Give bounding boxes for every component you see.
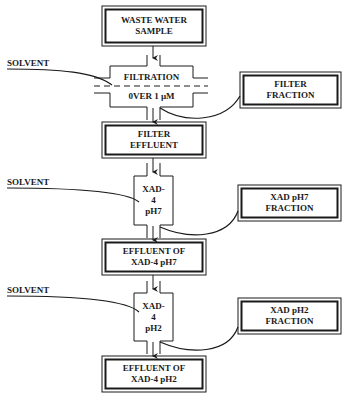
xad4-ph7-column-label: XAD- 4 pH7 <box>134 184 173 217</box>
solvent-line-3 <box>7 296 139 312</box>
effluent-xad4-ph2-label: EFFLUENT OF XAD-4 pH2 <box>102 363 206 385</box>
solvent-label-3: SOLVENT <box>7 285 49 296</box>
xad-ph7-fraction-label: XAD pH7 FRACTION <box>238 192 341 214</box>
solvent-line-1 <box>7 69 112 85</box>
effluent-xad4-ph7-label: EFFLUENT OF XAD-4 pH7 <box>102 246 206 268</box>
solvent-line-2 <box>7 188 139 202</box>
solvent-label-2: SOLVENT <box>7 177 49 188</box>
solvent-label-1: SOLVENT <box>7 58 49 69</box>
waste-water-sample-label: WASTE WATER SAMPLE <box>102 15 206 37</box>
xad4-ph2-column-label: XAD- 4 pH2 <box>134 301 173 334</box>
filtration-unit <box>94 55 208 120</box>
filtration-label-bottom: 0VER 1 µM <box>110 91 193 102</box>
filtration-label-top: FILTRATION <box>110 72 193 83</box>
filter-fraction-label: FILTER FRACTION <box>240 79 341 101</box>
xad-ph2-fraction-label: XAD pH2 FRACTION <box>238 305 341 327</box>
filter-effluent-label: FILTER EFFLUENT <box>102 129 206 151</box>
